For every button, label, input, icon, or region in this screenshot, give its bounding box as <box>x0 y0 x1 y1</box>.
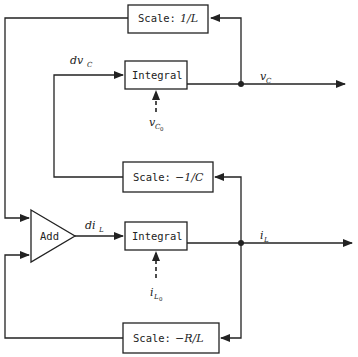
block-integral-il[interactable]: Integral <box>125 222 187 250</box>
junction-il <box>238 240 244 246</box>
label-il: i L <box>260 229 269 244</box>
svg-text:L: L <box>263 236 269 244</box>
block-value: −1/C <box>175 171 204 184</box>
wire-vc-to-scale-1L <box>211 18 241 84</box>
block-value: −R/L <box>175 332 204 345</box>
svg-text:i: i <box>150 286 154 299</box>
wire-il-to-scale-1C <box>215 177 241 243</box>
block-label: Integral <box>132 69 183 81</box>
svg-text:C: C <box>87 61 93 69</box>
svg-text:0: 0 <box>160 126 164 132</box>
block-scale-1-over-L[interactable]: Scale: 1/L <box>128 5 208 33</box>
block-label: Add <box>40 230 59 242</box>
svg-text:di: di <box>85 219 96 232</box>
wire-scale-RL-to-add <box>5 255 123 338</box>
block-add[interactable]: Add <box>31 210 75 262</box>
block-integral-vc[interactable]: Integral <box>125 61 187 89</box>
junction-vc <box>238 81 244 87</box>
block-scale-neg-R-over-L[interactable]: Scale: −R/L <box>123 323 219 353</box>
svg-text:C: C <box>266 77 272 85</box>
block-diagram: Scale: 1/L Integral Scale: −1/C Add Inte… <box>0 0 358 357</box>
wire-scale-1L-to-add <box>5 18 128 218</box>
svg-text:0: 0 <box>159 296 163 302</box>
svg-text:dv: dv <box>70 54 84 67</box>
block-value: 1/L <box>180 12 198 25</box>
label-dil: di L <box>85 219 104 234</box>
wire-il-to-scale-RL <box>221 243 241 338</box>
label-vc: v C <box>260 70 272 85</box>
block-label: Integral <box>132 230 183 242</box>
label-il0: i L 0 <box>150 286 163 302</box>
block-label: Scale: <box>133 171 171 183</box>
svg-text:L: L <box>98 226 104 234</box>
svg-text:i: i <box>260 229 264 242</box>
label-dvc: dv C <box>70 54 93 69</box>
block-label: Scale: <box>138 12 176 24</box>
label-vc0: v C 0 <box>149 116 164 132</box>
wire-dvc-to-integral-top <box>54 75 123 177</box>
block-scale-neg-1-over-C[interactable]: Scale: −1/C <box>123 162 213 192</box>
block-label: Scale: <box>133 332 171 344</box>
